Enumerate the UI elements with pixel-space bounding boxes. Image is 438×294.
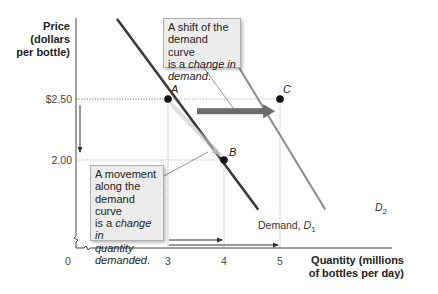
point-c: [276, 95, 284, 103]
shift-callout-italic-2: demand: [168, 70, 208, 82]
x-axis-break: [84, 246, 90, 250]
shift-arrow-shaft: [197, 108, 265, 114]
demand-d1-label: Demand, D1: [258, 219, 316, 234]
shift-callout: A shift of the demand curve is a change …: [163, 18, 241, 68]
shift-callout-italic: change in: [188, 58, 236, 70]
point-label-b: B: [229, 146, 236, 158]
movement-callout-line-6: demanded.: [95, 254, 159, 266]
shift-callout-line-2: demand curve: [168, 33, 236, 58]
tick-labels: 0345$2.502.00: [46, 93, 283, 267]
y-tick-label: $2.50: [46, 93, 72, 105]
y-axis-title-line-3: per bottle): [16, 46, 70, 58]
point-label-c: C: [283, 83, 291, 95]
x-axis-title-line-2: of bottles per day): [309, 267, 405, 279]
movement-callout-line-1: A movement: [95, 168, 159, 180]
y-axis-title-line-2: (dollars: [30, 33, 70, 45]
movement-callout-period: .: [147, 254, 150, 266]
point-b: [220, 156, 228, 164]
x-tick-label: 5: [277, 255, 283, 267]
movement-callout-plain: is a: [95, 217, 115, 229]
movement-callout-italic-3: demanded: [95, 254, 147, 266]
demand-d2-label: D2: [375, 201, 388, 216]
y-tick-label: 2.00: [52, 154, 73, 166]
shift-callout-line-1: A shift of the: [168, 21, 236, 33]
point-label-a: A: [170, 83, 178, 95]
movement-callout-leader: [164, 152, 208, 176]
movement-callout: A movement along the demand curve is a c…: [90, 165, 164, 241]
shift-callout-line-3: is a change in: [168, 58, 236, 70]
movement-callout-line-5: quantity: [95, 242, 159, 254]
shift-callout-period: .: [208, 70, 211, 82]
point-a: [164, 95, 172, 103]
shift-callout-line-4: demand.: [168, 70, 236, 82]
x-tick-label: 3: [165, 255, 171, 267]
movement-callout-line-4: is a change in: [95, 217, 159, 242]
y-axis-break: [74, 236, 78, 248]
shift-callout-plain: is a: [168, 58, 188, 70]
origin-label: 0: [65, 255, 71, 267]
movement-callout-italic-2: quantity: [95, 242, 134, 254]
x-tick-label: 4: [221, 255, 227, 267]
movement-callout-line-3: demand curve: [95, 193, 159, 218]
y-axis-title-line-1: Price: [43, 20, 70, 32]
movement-callout-line-2: along the: [95, 180, 159, 192]
x-axis-title-line-1: Quantity (millions: [311, 254, 404, 266]
